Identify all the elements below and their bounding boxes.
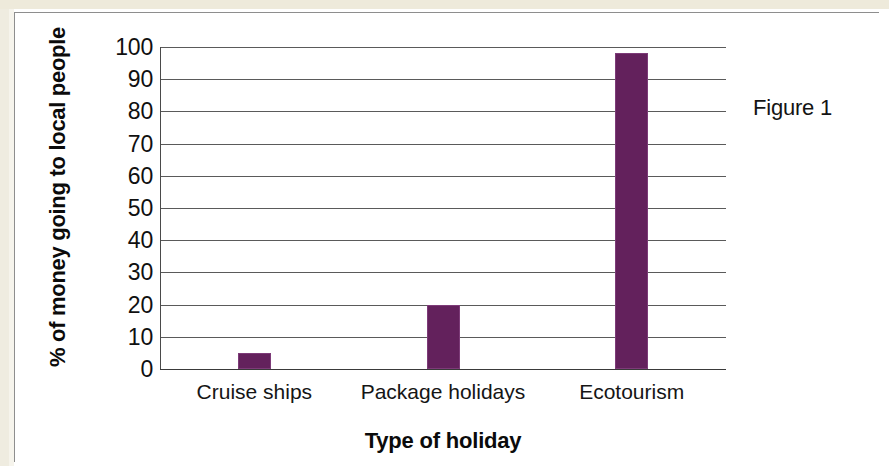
x-axis-tick-label: Package holidays bbox=[343, 381, 543, 403]
figure-caption: Figure 1 bbox=[753, 95, 832, 121]
y-axis-tick-label: 50 bbox=[128, 197, 153, 220]
bar bbox=[615, 53, 648, 369]
y-axis-tick-label: 60 bbox=[128, 165, 153, 188]
y-axis-tick-label: 40 bbox=[128, 229, 153, 252]
y-axis-tick-label: 80 bbox=[128, 100, 153, 123]
y-axis-tick-labels: 0102030405060708090100 bbox=[85, 47, 153, 369]
bar-series bbox=[160, 47, 726, 369]
y-axis-tick-label: 100 bbox=[115, 36, 153, 59]
page-canvas: % of money going to local people 0102030… bbox=[0, 0, 889, 466]
y-axis-tick-label: 30 bbox=[128, 261, 153, 284]
bar bbox=[427, 305, 460, 369]
y-axis-tick-label: 0 bbox=[140, 358, 153, 381]
x-axis-tick-label: Cruise ships bbox=[154, 381, 354, 403]
plot-area bbox=[160, 47, 726, 369]
x-axis-tick-label: Ecotourism bbox=[532, 381, 732, 403]
chart-frame: % of money going to local people 0102030… bbox=[14, 12, 879, 462]
scan-edge-top bbox=[0, 0, 889, 9]
y-axis-tick-label: 90 bbox=[128, 68, 153, 91]
x-axis-tick-labels: Cruise shipsPackage holidaysEcotourism bbox=[160, 381, 726, 415]
x-axis-line bbox=[160, 369, 726, 370]
y-axis-tick-label: 10 bbox=[128, 326, 153, 349]
y-axis-title: % of money going to local people bbox=[45, 57, 79, 367]
bar bbox=[238, 353, 271, 369]
x-axis-title: Type of holiday bbox=[160, 428, 726, 454]
y-axis-tick-label: 70 bbox=[128, 133, 153, 156]
y-axis-tick-label: 20 bbox=[128, 294, 153, 317]
